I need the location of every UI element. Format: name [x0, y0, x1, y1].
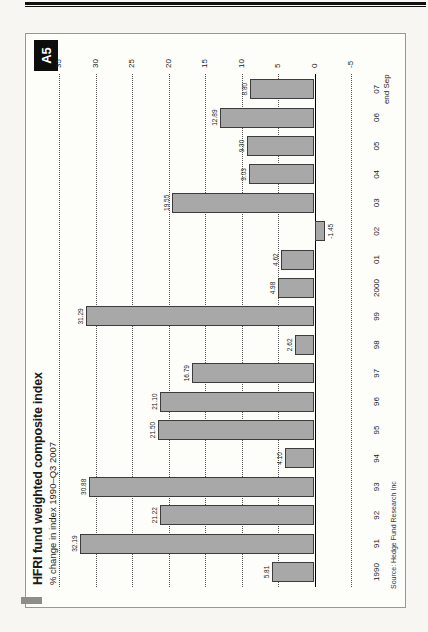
bar	[192, 363, 315, 383]
bar-value-label: 21.22	[151, 495, 158, 535]
bar-value-label: 9.30	[238, 126, 245, 166]
bar-value-label: 5.81	[263, 552, 270, 592]
bar	[160, 392, 314, 412]
gridline	[351, 74, 352, 587]
bar	[80, 534, 315, 554]
bar-value-label: 12.89	[211, 98, 218, 138]
bar-value-label: -1.45	[327, 211, 334, 251]
bar-value-label: 16.79	[183, 353, 190, 393]
bar	[285, 448, 315, 468]
gridline	[59, 74, 60, 587]
y-tick-label: -5	[346, 61, 355, 68]
bar	[160, 505, 315, 525]
page-top-rule-thin	[25, 6, 426, 7]
bar-value-label: 21.10	[151, 382, 158, 422]
y-tick-label: 5	[273, 64, 282, 68]
gridline	[132, 74, 133, 587]
source-note: Source: Hedge Fund Research Inc	[390, 481, 397, 589]
bar	[278, 278, 314, 298]
bar	[158, 420, 315, 440]
bar	[220, 108, 314, 128]
bar	[281, 250, 315, 270]
page: A5 HFRI fund weighted composite index % …	[0, 0, 428, 632]
y-tick-label: 25	[127, 59, 136, 68]
y-tick-label: 30	[91, 59, 100, 68]
figure-panel: A5 HFRI fund weighted composite index % …	[25, 33, 406, 608]
bar-value-label: 4.10	[276, 438, 283, 478]
bar	[315, 221, 326, 241]
bar	[272, 562, 314, 582]
y-tick-label: 10	[237, 59, 246, 68]
bar-value-label: 30.88	[80, 467, 87, 507]
bar-value-label: 32.19	[71, 524, 78, 564]
bar	[250, 79, 314, 99]
gridline	[96, 74, 97, 587]
bar-value-label: 8.80	[241, 69, 248, 109]
bar-value-label: 4.62	[272, 240, 279, 280]
y-tick-label: 0	[310, 64, 319, 68]
bar-chart-plot: 35302520151050-55.81199032.199121.229230…	[26, 34, 405, 607]
page-top-rule-thick	[25, 2, 426, 5]
bar	[89, 477, 314, 497]
bar	[249, 164, 315, 184]
y-tick-label: 35	[54, 59, 63, 68]
page-top-rule	[25, 2, 426, 7]
bar-value-label: 2.62	[286, 325, 293, 365]
figure-rotated-wrap: A5 HFRI fund weighted composite index % …	[25, 33, 406, 608]
y-tick-label: 20	[164, 59, 173, 68]
bar	[86, 306, 314, 326]
bar	[247, 136, 315, 156]
bar	[172, 193, 315, 213]
x-tick-label: 07end Sep	[372, 67, 392, 111]
y-tick-label: 15	[200, 59, 209, 68]
bar-value-label: 31.29	[77, 296, 84, 336]
x-tick-subnote: end Sep	[382, 67, 392, 111]
zero-line	[315, 74, 316, 587]
bar-value-label: 19.55	[163, 183, 170, 223]
bar	[295, 335, 314, 355]
